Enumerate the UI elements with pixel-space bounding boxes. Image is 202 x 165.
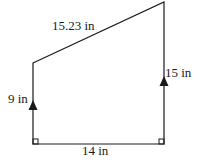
right-angle-marker-bottom-left [33, 139, 38, 144]
trapezoid-diagram: 15.23 in 9 in 15 in 14 in [0, 0, 202, 165]
label-bottom: 14 in [82, 143, 109, 158]
label-left-side: 9 in [8, 91, 28, 106]
label-top-slant: 15.23 in [52, 18, 95, 33]
right-angle-marker-bottom-right [159, 139, 164, 144]
parallel-arrow-left-icon [29, 100, 38, 110]
label-right-side: 15 in [165, 65, 192, 80]
